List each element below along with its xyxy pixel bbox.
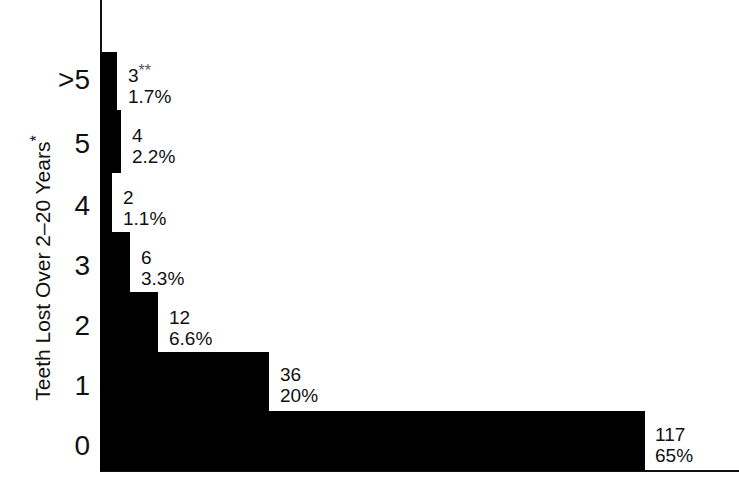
bar-0: [100, 411, 645, 471]
bar-1: [100, 352, 269, 411]
y-tick-1: 1: [50, 372, 90, 400]
y-tick-0: 0: [50, 432, 90, 460]
y-tick-3: 3: [50, 252, 90, 280]
value-label-4: 21.1%: [123, 187, 166, 229]
bar-2: [100, 292, 158, 352]
y-tick-5: 5: [50, 130, 90, 158]
bar-5: [100, 110, 121, 173]
y-tick-gt5: >5: [40, 66, 90, 94]
value-label-2: 126.6%: [169, 307, 212, 349]
value-label-0: 11765%: [655, 424, 693, 466]
value-label-5: 42.2%: [132, 125, 175, 167]
bar-gt5: [100, 52, 117, 110]
bar-4: [100, 173, 112, 232]
y-tick-4: 4: [50, 192, 90, 220]
value-label-3: 63.3%: [141, 247, 184, 289]
y-tick-2: 2: [50, 312, 90, 340]
value-label-gt5: 3**1.7%: [128, 60, 171, 107]
value-label-1: 3620%: [280, 364, 318, 406]
bar-3: [100, 232, 130, 292]
